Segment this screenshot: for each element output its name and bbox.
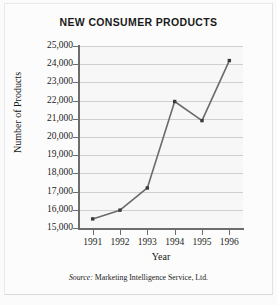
y-axis-tick-label: 19,000 xyxy=(27,150,73,160)
y-axis-tick-label: 25,000 xyxy=(27,41,73,51)
gridline xyxy=(79,64,243,65)
gridline xyxy=(79,82,243,83)
y-axis-title: Number of Products xyxy=(12,53,23,173)
x-axis-title: Year xyxy=(79,251,243,262)
y-axis-tick-labels: 15,00016,00017,00018,00019,00020,00021,0… xyxy=(25,0,73,305)
y-axis-tick-label: 17,000 xyxy=(27,187,73,197)
y-axis-tick-label: 23,000 xyxy=(27,77,73,87)
gridline xyxy=(79,192,243,193)
x-axis-line xyxy=(78,228,244,230)
y-axis-tick-label: 24,000 xyxy=(27,59,73,69)
gridline xyxy=(79,137,243,138)
gridline xyxy=(79,46,243,47)
x-axis-tick xyxy=(93,229,94,235)
source-label: Source: xyxy=(69,273,93,282)
y-axis-tick-label: 20,000 xyxy=(27,132,73,142)
x-axis-tick xyxy=(120,229,121,235)
y-axis-tick-label: 18,000 xyxy=(27,168,73,178)
source-note: Source: Marketing Intelligence Service, … xyxy=(0,273,277,282)
y-axis-tick-label: 22,000 xyxy=(27,96,73,106)
y-axis-tick-label: 15,000 xyxy=(27,223,73,233)
x-axis-tick xyxy=(147,229,148,235)
x-axis-tick-label: 1996 xyxy=(209,237,249,247)
y-axis-tick-label: 21,000 xyxy=(27,114,73,124)
figure-container: NEW CONSUMER PRODUCTS 15,00016,00017,000… xyxy=(0,0,277,305)
gridline xyxy=(79,101,243,102)
x-axis-tick xyxy=(229,229,230,235)
y-axis-line xyxy=(78,45,80,229)
x-axis-tick xyxy=(175,229,176,235)
gridline xyxy=(79,155,243,156)
gridline xyxy=(79,173,243,174)
x-axis-tick xyxy=(202,229,203,235)
source-value: Marketing Intelligence Service, Ltd. xyxy=(95,273,208,282)
gridline xyxy=(79,119,243,120)
gridline xyxy=(79,210,243,211)
y-axis-tick-label: 16,000 xyxy=(27,205,73,215)
